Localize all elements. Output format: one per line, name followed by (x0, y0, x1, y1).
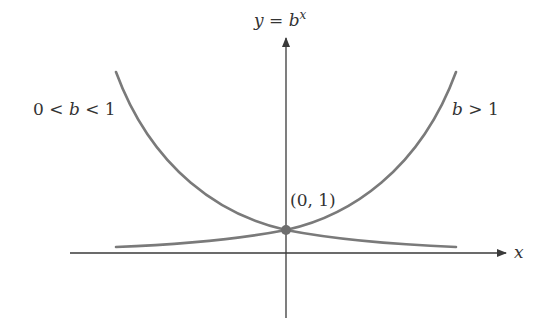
exponential-diagram: y = bx 0 < b < 1 b > 1 (0, 1) x (0, 0, 548, 328)
function-label: y = bx (253, 8, 307, 30)
right-curve-label: b > 1 (452, 99, 499, 119)
left-curve-label: 0 < b < 1 (33, 99, 116, 119)
intersection-point (281, 225, 291, 235)
point-label: (0, 1) (290, 190, 336, 210)
x-axis-label: x (514, 242, 524, 262)
